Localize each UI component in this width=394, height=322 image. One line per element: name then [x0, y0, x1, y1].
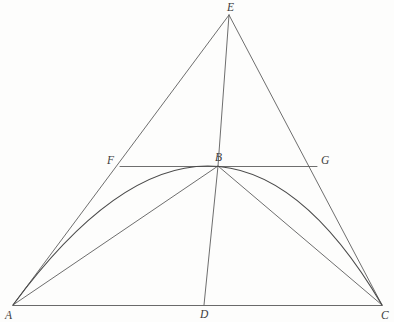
vertex-label-A: A — [5, 310, 12, 322]
geometry-figure: A B C D E F G — [0, 0, 394, 322]
curve-arc-ABC — [13, 166, 382, 305]
segment-AE — [13, 15, 229, 305]
geometry-canvas — [0, 0, 394, 322]
vertex-label-F: F — [107, 155, 114, 167]
vertex-label-C: C — [381, 310, 389, 322]
vertex-label-D: D — [200, 309, 208, 321]
segment-EC — [229, 15, 382, 305]
vertex-label-G: G — [321, 155, 329, 167]
segment-BC — [218, 166, 382, 305]
vertex-label-B: B — [215, 152, 222, 164]
segment-AB — [13, 166, 218, 305]
vertex-label-E: E — [227, 2, 234, 14]
